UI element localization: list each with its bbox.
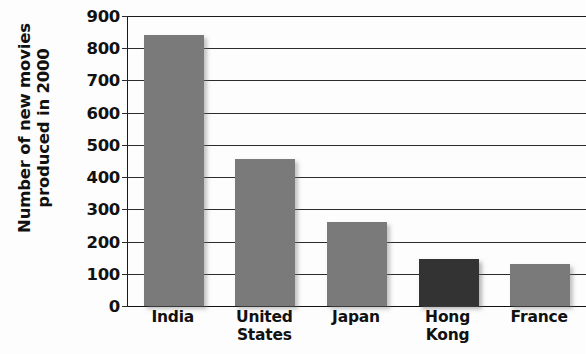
x-axis-label-united-states: UnitedStates [219,309,311,345]
bars-group [128,16,586,306]
bar-japan [327,222,387,306]
y-axis-tick-labels: 0100200300400500600700800900 [72,0,120,354]
x-axis-tick-labels: IndiaUnitedStatesJapanHongKongFrance [127,309,585,354]
y-axis-tick-label: 700 [72,71,120,90]
x-axis-label-india: India [127,309,219,327]
x-axis-label-line: India [127,309,219,327]
y-axis-tick-label: 900 [72,7,120,26]
y-axis-tick-label: 300 [72,200,120,219]
y-axis-title: Number of new movies produced in 2000 [2,8,66,248]
x-axis-label-line: Kong [402,327,494,345]
bar-france [510,264,570,306]
x-axis-label-line: Japan [310,309,402,327]
bar-india [144,35,204,306]
bar-united-states [235,159,295,306]
gridline [128,306,586,307]
x-axis-label-line: States [219,327,311,345]
x-axis-label-line: France [493,309,585,327]
y-axis-tickmark [122,306,128,307]
y-axis-tick-label: 800 [72,39,120,58]
x-axis-label-france: France [493,309,585,327]
y-axis-tick-label: 500 [72,135,120,154]
plot-area [127,16,585,306]
y-axis-tick-label: 100 [72,264,120,283]
x-axis-label-line: Hong [402,309,494,327]
y-axis-tick-label: 0 [72,297,120,316]
y-axis-title-line-1: Number of new movies [15,23,34,233]
x-axis-label-hong-kong: HongKong [402,309,494,345]
y-axis-tick-label: 600 [72,103,120,122]
bar-hong-kong [419,259,479,306]
x-axis-label-line: United [219,309,311,327]
y-axis-tick-label: 200 [72,232,120,251]
y-axis-tick-label: 400 [72,168,120,187]
x-axis-label-japan: Japan [310,309,402,327]
y-axis-title-line-2: produced in 2000 [34,48,53,207]
